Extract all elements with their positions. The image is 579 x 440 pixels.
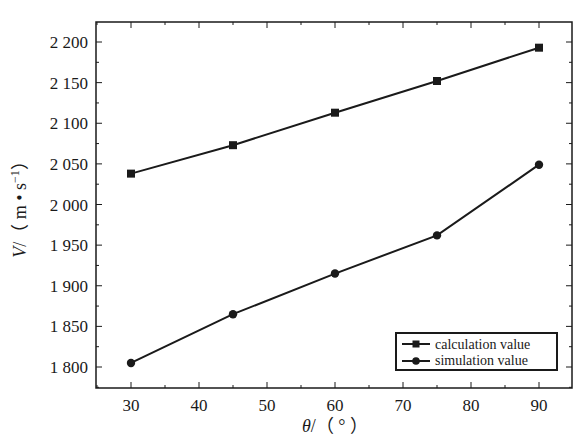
circle-marker-icon: [127, 359, 135, 367]
square-marker-icon: [127, 170, 135, 178]
x-tick-label: 80: [463, 396, 480, 415]
series-calculation-value: [127, 44, 543, 178]
circle-marker-icon: [412, 357, 420, 365]
line-chart: 304050607080901 8001 8501 9001 9502 0002…: [0, 0, 579, 440]
x-tick-label: 30: [123, 396, 140, 415]
circle-marker-icon: [433, 231, 441, 239]
y-tick-label: 2 050: [50, 155, 88, 174]
x-tick-label: 70: [395, 396, 412, 415]
legend: calculation value simulation value: [396, 333, 557, 370]
y-tick-label: 2 150: [50, 74, 88, 93]
y-tick-label: 2 000: [50, 196, 88, 215]
svg-text:calculation value: calculation value: [435, 337, 530, 352]
circle-marker-icon: [535, 160, 543, 168]
y-tick-label: 1 800: [50, 358, 88, 377]
y-axis-title: V/（ m • s−1）: [8, 152, 30, 258]
square-marker-icon: [535, 44, 543, 52]
y-tick-label: 1 850: [50, 317, 88, 336]
y-tick-label: 1 950: [50, 236, 88, 255]
data-series: [127, 44, 543, 367]
square-marker-icon: [433, 77, 441, 85]
y-tick-label: 2 100: [50, 114, 88, 133]
svg-text:simulation value: simulation value: [435, 353, 528, 368]
x-tick-label: 40: [191, 396, 208, 415]
square-marker-icon: [413, 341, 420, 348]
x-axis-title: θ/（ ° ）: [302, 416, 368, 436]
square-marker-icon: [331, 109, 339, 117]
x-tick-label: 50: [259, 396, 276, 415]
square-marker-icon: [229, 141, 237, 149]
y-tick-label: 1 900: [50, 277, 88, 296]
y-tick-label: 2 200: [50, 33, 88, 52]
x-tick-label: 60: [327, 396, 344, 415]
circle-marker-icon: [331, 269, 339, 277]
circle-marker-icon: [229, 310, 237, 318]
x-tick-label: 90: [531, 396, 548, 415]
